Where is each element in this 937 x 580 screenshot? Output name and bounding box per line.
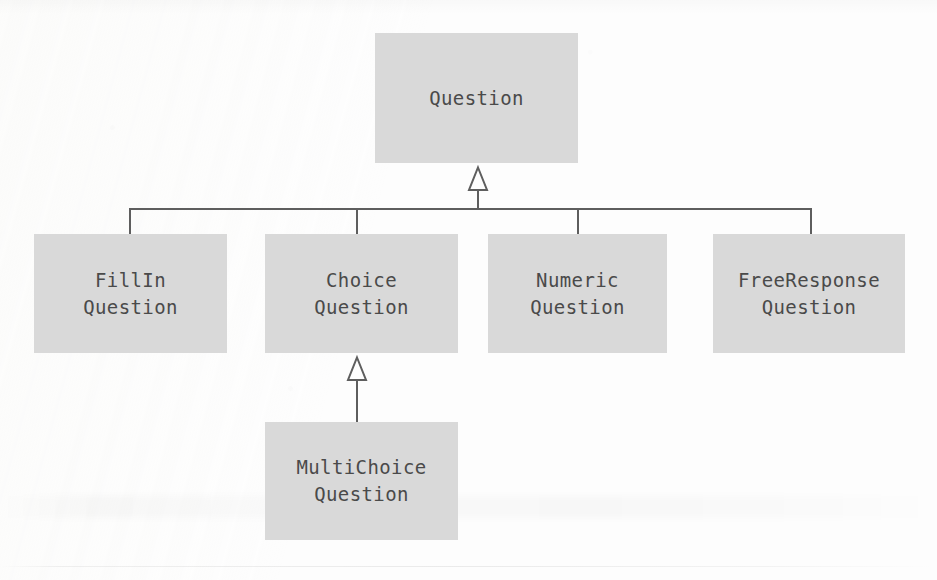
class-label-fillin-line1: FillIn [95, 267, 166, 294]
scan-smudge-top [0, 0, 937, 14]
generalization-stem-to-question [477, 189, 479, 210]
class-box-choice-question[interactable]: Choice Question [265, 234, 458, 353]
scan-line-artifact [0, 566, 937, 567]
uml-diagram-canvas: Question FillIn Question Choice Question… [0, 0, 937, 580]
class-box-question[interactable]: Question [375, 33, 578, 163]
generalization-drop-freeresponse [810, 208, 812, 235]
generalization-drop-fillin [129, 208, 131, 235]
generalization-stem-to-choice [356, 379, 358, 423]
class-label-numeric-line1: Numeric [536, 267, 619, 294]
class-label-freeresponse-line2: Question [762, 294, 857, 321]
class-label-multichoice-line1: MultiChoice [296, 454, 426, 481]
class-label-fillin-line2: Question [83, 294, 178, 321]
class-label-freeresponse-line1: FreeResponse [738, 267, 880, 294]
class-box-multichoice-question[interactable]: MultiChoice Question [265, 422, 458, 540]
class-box-fillin-question[interactable]: FillIn Question [34, 234, 227, 353]
class-label-choice-line1: Choice [326, 267, 397, 294]
class-box-numeric-question[interactable]: Numeric Question [488, 234, 667, 353]
class-label-multichoice-line2: Question [314, 481, 409, 508]
scan-smudge-middle [0, 496, 937, 518]
generalization-drop-numeric [577, 208, 579, 235]
class-label-choice-line2: Question [314, 294, 409, 321]
generalization-drop-choice [356, 208, 358, 235]
class-label-numeric-line2: Question [530, 294, 625, 321]
class-box-freeresponse-question[interactable]: FreeResponse Question [713, 234, 905, 353]
generalization-bus-line [129, 208, 812, 210]
class-label-question-line1: Question [429, 85, 524, 112]
